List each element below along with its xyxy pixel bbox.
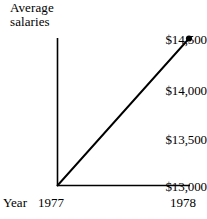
data-point-marker-1978 — [186, 35, 192, 41]
salary-trend-line — [58, 39, 190, 186]
average-salaries-line-chart: Average salaries $14,500 $14,000 $13,500… — [0, 0, 207, 219]
plot-area — [0, 0, 207, 219]
